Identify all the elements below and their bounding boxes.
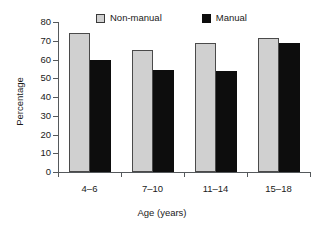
y-axis-tick-label: 80 (40, 17, 51, 27)
y-axis-tick-label: 40 (40, 92, 51, 102)
bar-non-manual-2 (195, 43, 216, 172)
bar-manual-0 (90, 60, 111, 173)
y-axis-tick-label: 60 (40, 55, 51, 65)
y-axis-tick (53, 97, 58, 98)
x-axis-tick (58, 172, 59, 177)
y-axis-tick (53, 153, 58, 154)
bar-non-manual-1 (132, 50, 153, 172)
y-axis-title: Percentage (14, 52, 25, 152)
bar-manual-1 (153, 70, 174, 172)
y-axis-tick (53, 22, 58, 23)
y-axis-tick-label: 20 (40, 130, 51, 140)
y-axis-tick-label: 70 (40, 36, 51, 46)
y-axis-tick-label: 10 (40, 148, 51, 158)
x-axis-category-label: 4–6 (82, 183, 98, 194)
plot-area: 010203040506070804–67–1011–1415–18 (58, 22, 310, 172)
bar-manual-3 (279, 43, 300, 172)
x-axis-category-label: 7–10 (142, 183, 163, 194)
x-axis-tick (184, 172, 185, 177)
x-axis-title: Age (years) (0, 207, 324, 218)
x-axis-tick (247, 172, 248, 177)
x-axis-tick (310, 172, 311, 177)
y-axis-tick (53, 135, 58, 136)
y-axis-tick-label: 0 (46, 167, 51, 177)
bar-manual-2 (216, 71, 237, 172)
bar-non-manual-0 (69, 33, 90, 172)
y-axis-tick (53, 78, 58, 79)
y-axis-tick (53, 60, 58, 61)
x-axis-tick (121, 172, 122, 177)
y-axis-tick (53, 41, 58, 42)
bar-non-manual-3 (258, 38, 279, 172)
y-axis-line (58, 22, 59, 172)
y-axis-tick-label: 30 (40, 111, 51, 121)
y-axis-tick (53, 116, 58, 117)
x-axis-category-label: 15–18 (265, 183, 291, 194)
x-axis-category-label: 11–14 (203, 183, 229, 194)
bar-chart: Non-manual Manual Percentage 01020304050… (0, 0, 324, 234)
y-axis-tick-label: 50 (40, 73, 51, 83)
